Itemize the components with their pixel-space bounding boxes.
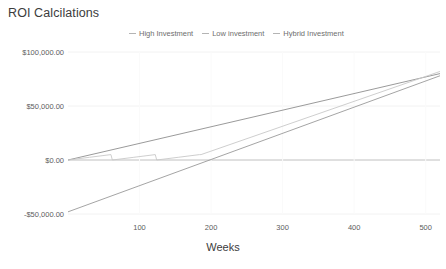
x-axis-tick-label: 100 <box>133 223 146 232</box>
y-axis-tick-label: $100,000.00 <box>22 48 64 57</box>
x-axis-tick-label: 300 <box>276 223 289 232</box>
x-axis-tick-label: 200 <box>205 223 218 232</box>
series-lines <box>68 71 440 211</box>
y-axis-tick-label: -$50,000.00 <box>24 210 64 219</box>
series-line-high-investment <box>68 74 440 160</box>
series-line-low-investment <box>68 76 440 212</box>
y-axis-tick-label: $0.00 <box>45 156 64 165</box>
plot-area <box>0 0 446 269</box>
x-axis-tick-label: 400 <box>348 223 361 232</box>
chart-container: ROI Calcilations High Investment Low inv… <box>0 0 446 269</box>
x-axis-tick-label: 500 <box>419 223 432 232</box>
y-axis-tick-label: $50,000.00 <box>26 102 64 111</box>
x-axis-title: Weeks <box>0 241 446 253</box>
gridlines <box>68 52 440 214</box>
